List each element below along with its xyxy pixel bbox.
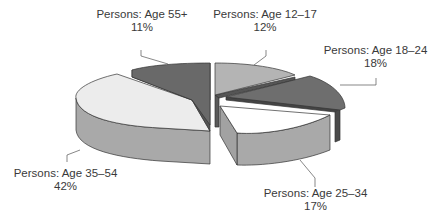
label-pct: 42% (8, 180, 123, 193)
label-age-35-54: Persons: Age 35–54 42% (8, 167, 123, 193)
label-age-55-plus: Persons: Age 55+ 11% (92, 8, 192, 34)
leader-line-25-34 (300, 160, 315, 187)
label-name: Persons: Age 12–17 (210, 8, 320, 21)
label-age-25-34: Persons: Age 25–34 17% (258, 187, 373, 213)
label-name: Persons: Age 55+ (92, 8, 192, 21)
leader-line-18-24 (340, 78, 376, 85)
label-name: Persons: Age 18–24 (318, 44, 433, 57)
leader-line-35-54 (67, 150, 80, 162)
label-name: Persons: Age 25–34 (258, 187, 373, 200)
label-pct: 18% (318, 57, 433, 70)
label-pct: 12% (210, 21, 320, 34)
leader-line-12-17 (254, 50, 266, 65)
label-pct: 11% (92, 21, 192, 34)
label-name: Persons: Age 35–54 (8, 167, 123, 180)
label-age-12-17: Persons: Age 12–17 12% (210, 8, 320, 34)
label-pct: 17% (258, 200, 373, 213)
leader-line-55-plus (141, 50, 168, 64)
label-age-18-24: Persons: Age 18–24 18% (318, 44, 433, 70)
